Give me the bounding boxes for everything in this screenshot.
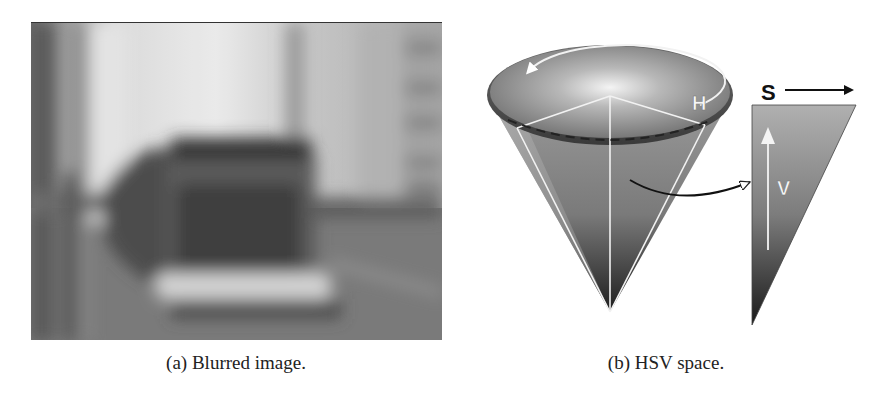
hsv-cone-diagram: H S V	[470, 10, 880, 340]
caption-hsv-space: (b) HSV space.	[608, 352, 724, 374]
hue-label: H	[692, 92, 706, 114]
blurred-photo	[31, 22, 442, 340]
value-label: V	[777, 177, 791, 199]
saturation-label: S	[761, 80, 776, 105]
caption-blurred-image: (a) Blurred image.	[166, 352, 306, 374]
